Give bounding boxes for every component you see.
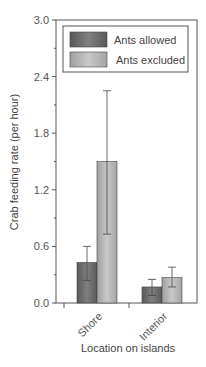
legend-label: Ants allowed <box>114 34 176 46</box>
y-tick-label: 0.6 <box>34 240 49 252</box>
y-tick-label: 0.0 <box>34 297 49 309</box>
legend-label: Ants excluded <box>116 54 185 66</box>
bar-chart: 0.00.61.21.82.43.0ShoreInteriorAnts allo… <box>0 0 206 367</box>
legend-swatch <box>70 32 107 47</box>
y-tick-label: 2.4 <box>34 71 49 83</box>
x-tick-label: Shore <box>75 310 104 339</box>
y-axis-label: Crab feeding rate (per hour) <box>8 94 20 230</box>
x-tick-label: Interior <box>137 310 170 343</box>
y-tick-label: 3.0 <box>34 14 49 26</box>
x-axis-label: Location on islands <box>81 342 176 354</box>
y-tick-label: 1.2 <box>34 184 49 196</box>
y-tick-label: 1.8 <box>34 127 49 139</box>
legend-swatch <box>70 52 107 67</box>
